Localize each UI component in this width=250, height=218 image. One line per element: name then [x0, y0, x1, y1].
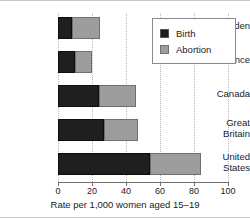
bar-segment-birth	[58, 51, 75, 73]
bar-segment-birth	[58, 153, 150, 175]
x-axis-label: Rate per 1,000 women aged 15–19	[0, 199, 250, 210]
x-tick-label-20: 20	[87, 186, 97, 196]
bar-segment-abortion	[75, 51, 92, 73]
category-label-united-states: United States	[196, 152, 250, 173]
legend-item-abortion: Abortion	[160, 41, 229, 57]
chart-legend: Birth Abortion	[152, 18, 236, 64]
chart-figure: Sweden France Canada Great Britain Unite…	[0, 0, 250, 218]
bar-segment-birth	[58, 85, 99, 107]
bar-segment-birth	[58, 119, 104, 141]
bar-segment-abortion	[150, 153, 201, 175]
x-tick-label-100: 100	[220, 186, 235, 196]
x-tick-label-40: 40	[121, 186, 131, 196]
bar-segment-abortion	[104, 119, 138, 141]
legend-swatch-abortion-icon	[160, 45, 169, 54]
bar-segment-abortion	[72, 17, 101, 39]
category-label-canada: Canada	[196, 89, 250, 100]
bar-segment-birth	[58, 17, 72, 39]
legend-item-birth: Birth	[160, 25, 229, 41]
legend-swatch-birth-icon	[160, 29, 169, 38]
category-label-great-britain: Great Britain	[196, 118, 250, 139]
x-tick-label-60: 60	[155, 186, 165, 196]
x-tick-label-0: 0	[55, 186, 60, 196]
bar-segment-abortion	[99, 85, 136, 107]
x-tick-label-80: 80	[189, 186, 199, 196]
legend-label-birth: Birth	[176, 28, 196, 39]
x-axis-line	[58, 182, 228, 183]
legend-label-abortion: Abortion	[176, 44, 211, 55]
